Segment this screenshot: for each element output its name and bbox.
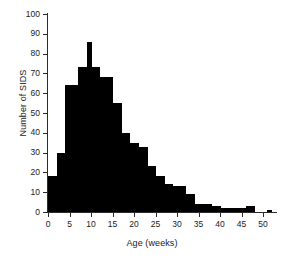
y-tick-label: 20	[12, 168, 40, 177]
x-tick	[263, 213, 264, 217]
y-tick-label: 30	[12, 148, 40, 157]
y-tick	[43, 192, 47, 193]
histogram-bar	[267, 210, 272, 212]
x-tick-label: 0	[38, 220, 58, 229]
y-tick-label: 50	[12, 109, 40, 118]
x-tick	[134, 213, 135, 217]
x-tick	[177, 213, 178, 217]
histogram-bar	[250, 206, 255, 212]
x-tick	[242, 213, 243, 217]
y-tick	[43, 153, 47, 154]
x-tick-label: 15	[103, 220, 123, 229]
x-tick	[91, 213, 92, 217]
x-tick	[48, 213, 49, 217]
y-tick-label: 100	[12, 10, 40, 19]
histogram-bars	[48, 14, 276, 212]
y-tick-label: 0	[12, 208, 40, 217]
x-tick	[113, 213, 114, 217]
x-tick-label: 5	[60, 220, 80, 229]
x-tick-label: 25	[146, 220, 166, 229]
x-tick-label: 20	[124, 220, 144, 229]
y-tick	[43, 14, 47, 15]
y-tick	[43, 212, 47, 213]
y-tick	[43, 73, 47, 74]
y-tick-label: 60	[12, 89, 40, 98]
y-tick	[43, 93, 47, 94]
y-tick-label: 40	[12, 128, 40, 137]
x-tick	[199, 213, 200, 217]
y-tick-label: 10	[12, 188, 40, 197]
y-tick-label: 90	[12, 29, 40, 38]
x-tick-label: 50	[253, 220, 273, 229]
y-tick	[43, 172, 47, 173]
sids-age-histogram-figure: Number of SIDS Age (weeks) 0102030405060…	[0, 0, 287, 262]
x-tick	[70, 213, 71, 217]
x-tick-label: 10	[81, 220, 101, 229]
x-tick-label: 40	[210, 220, 230, 229]
y-tick	[43, 133, 47, 134]
y-tick	[43, 34, 47, 35]
x-tick-label: 35	[189, 220, 209, 229]
x-tick	[220, 213, 221, 217]
x-axis-title: Age (weeks)	[48, 238, 256, 248]
y-tick-label: 70	[12, 69, 40, 78]
y-tick	[43, 54, 47, 55]
x-tick-label: 45	[232, 220, 252, 229]
y-tick-label: 80	[12, 49, 40, 58]
x-tick-label: 30	[167, 220, 187, 229]
x-tick	[156, 213, 157, 217]
y-tick	[43, 113, 47, 114]
